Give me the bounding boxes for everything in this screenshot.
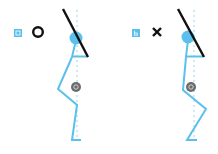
panel-b: b c: [132, 9, 206, 140]
body-line: [58, 57, 81, 140]
marker-c-a: c: [71, 82, 81, 92]
barbell-bar: [63, 9, 88, 57]
correct-circle-icon: [33, 27, 43, 37]
incorrect-cross-icon: [153, 28, 161, 36]
panel-label-a: a: [14, 29, 22, 37]
body-line: [183, 57, 206, 140]
barbell-bar: [178, 9, 204, 57]
marker-c-b: c: [186, 82, 196, 92]
panel-label-b: b: [132, 29, 140, 37]
posture-diagram: a c b: [0, 0, 218, 154]
panel-a: a c: [14, 9, 88, 140]
